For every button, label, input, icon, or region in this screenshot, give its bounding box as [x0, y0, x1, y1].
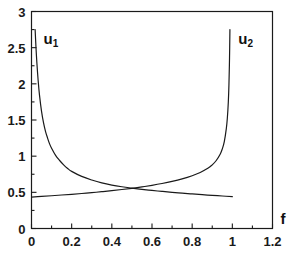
- axes-frame: [32, 12, 273, 229]
- x-tick-label: 0.8: [183, 235, 201, 248]
- curve-u2: [32, 30, 230, 197]
- x-axis-label: f: [281, 211, 286, 226]
- y-tick-label: 1.5: [0, 114, 26, 127]
- y-tick-label: 2: [0, 77, 26, 90]
- y-tick-label: 3: [0, 5, 26, 18]
- x-tick-label: 0.4: [103, 235, 121, 248]
- x-tick-label: 0: [28, 235, 35, 248]
- data-curves: [32, 30, 233, 197]
- x-tick-label: 1.2: [263, 235, 281, 248]
- curve-label-subscript: 1: [53, 38, 59, 49]
- axis-ticks: [32, 12, 273, 229]
- curve-label-base: u: [44, 30, 53, 47]
- chart-figure: 00.511.522.53 00.20.40.60.811.2 u1 u2 f: [0, 0, 295, 259]
- y-tick-label: 2.5: [0, 41, 26, 54]
- x-tick-label: 1: [229, 235, 236, 248]
- y-tick-label: 0: [0, 222, 26, 235]
- y-tick-label: 1: [0, 150, 26, 163]
- curve-label-base: u: [238, 30, 247, 47]
- curve-label-subscript: 2: [248, 38, 254, 49]
- y-tick-label: 0.5: [0, 186, 26, 199]
- curve-label-u2: u2: [238, 31, 253, 46]
- x-tick-label: 0.6: [143, 235, 161, 248]
- curve-label-u1: u1: [44, 31, 59, 46]
- x-tick-label: 0.2: [63, 235, 81, 248]
